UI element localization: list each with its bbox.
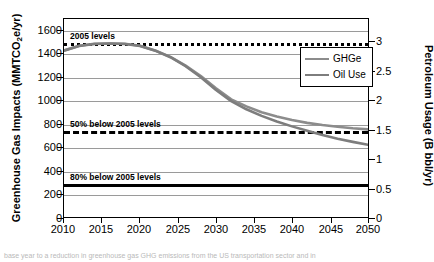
y-tick-left-200: 200	[16, 189, 62, 200]
y-tick-left-1600: 1600	[16, 25, 62, 36]
y-axis-right-title: Petroleum Usage (B bbl/yr)	[423, 6, 434, 226]
y-tick-right-0: 0	[376, 213, 416, 224]
legend-label-oil-use: Oil Use	[333, 70, 366, 80]
legend-swatch-oil-use	[305, 74, 329, 77]
y-tick-right-3: 3	[376, 36, 416, 47]
subscript-2: 2	[15, 37, 24, 41]
y-tick-left-800: 800	[16, 119, 62, 130]
tickmark-right-3	[369, 41, 375, 42]
y-tick-right-0p5: 0.5	[376, 184, 416, 195]
tickmark-right-2	[369, 100, 375, 101]
legend-label-ghge: GHGe	[333, 54, 361, 64]
x-tick-2050: 2050	[338, 224, 398, 235]
tickmark-right-1p5	[369, 130, 375, 131]
legend-item-ghge: GHGe	[305, 51, 366, 67]
y-tick-right-1p5: 1.5	[376, 125, 416, 136]
legend-swatch-ghge	[305, 58, 329, 61]
plot-area: 2005 levels 50% below 2005 levels 80% be…	[63, 18, 369, 218]
y-tick-left-1000: 1000	[16, 95, 62, 106]
chart-container: Greenhouse Gas Impacts (MMTCO2e/yr) Petr…	[0, 0, 434, 262]
y-tick-right-2p5: 2.5	[376, 66, 416, 77]
figure-caption: base year to a reduction in greenhouse g…	[0, 252, 434, 260]
tickmark-right-0p5	[369, 189, 375, 190]
tickmark-right-0	[369, 218, 375, 219]
y-tick-right-1: 1	[376, 154, 416, 165]
tickmark-right-1	[369, 159, 375, 160]
y-tick-left-1400: 1400	[16, 48, 62, 59]
y-tick-left-1200: 1200	[16, 72, 62, 83]
chart-legend: GHGe Oil Use	[300, 47, 373, 87]
y-tick-left-400: 400	[16, 166, 62, 177]
y-tick-right-2: 2	[376, 95, 416, 106]
y-tick-left-600: 600	[16, 142, 62, 153]
legend-item-oil-use: Oil Use	[305, 67, 366, 83]
